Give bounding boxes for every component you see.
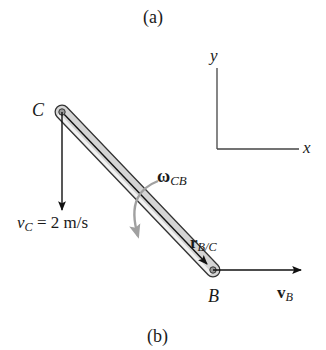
angular-velocity-label: ωCB (157, 167, 187, 188)
velocity-b-label: vB (277, 284, 293, 303)
position-vector-label: rB/C (190, 234, 217, 253)
caption-bottom: (b) (147, 327, 168, 345)
x-axis-label: x (303, 139, 311, 156)
y-axis-label: y (210, 47, 218, 64)
coordinate-axes (217, 68, 299, 149)
point-c-label: C (32, 101, 44, 119)
velocity-c-label: vC = 2 m/s (17, 214, 88, 233)
caption-top: (a) (143, 8, 163, 26)
point-b-label: B (208, 287, 219, 305)
